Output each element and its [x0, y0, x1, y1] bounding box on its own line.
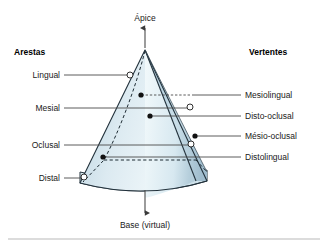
label-distal: Distal: [39, 173, 60, 183]
label-mesiolingual: Mesiolingual: [245, 90, 292, 100]
base-label: Base (virtual): [120, 220, 170, 230]
marker-distal-open-circle: [81, 174, 87, 180]
marker-mesiolingual-dot: [138, 92, 143, 97]
label-lingual: Lingual: [33, 70, 61, 80]
apex-label: Ápice: [134, 13, 156, 23]
label-mesio-oclusal: Mésio-oclusal: [245, 131, 297, 141]
label-oclusal: Oclusal: [32, 140, 60, 150]
marker-oclusal-open-circle: [188, 141, 194, 147]
label-distolingual: Distolingual: [245, 152, 289, 162]
marker-mesial-open-circle: [187, 104, 193, 110]
vertentes-heading: Vertentes: [249, 47, 288, 57]
label-disto-oclusal: Disto-oclusal: [245, 111, 294, 121]
marker-distolingual-dot: [100, 154, 105, 159]
marker-mesio-oclusal-dot: [192, 133, 197, 138]
label-mesial: Mesial: [35, 103, 60, 113]
arestas-heading: Arestas: [14, 47, 45, 57]
marker-lingual-open-circle: [127, 72, 133, 78]
marker-disto-oclusal-dot: [147, 113, 152, 118]
cusp-pyramid-diagram: Ápice Base (virtual) Arestas Lingua: [0, 0, 328, 249]
